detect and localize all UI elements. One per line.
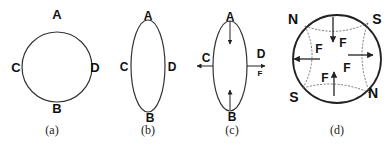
field-line-bottom bbox=[303, 84, 370, 93]
caption-b: (b) bbox=[141, 123, 155, 137]
pole-top-right: S bbox=[372, 11, 381, 27]
caption-d: (d) bbox=[330, 123, 344, 137]
force-label-top: F bbox=[339, 36, 346, 50]
force-label-bottom: F bbox=[321, 71, 328, 85]
caption-a: (a) bbox=[45, 123, 58, 137]
field-line-left bbox=[303, 26, 312, 88]
panel-b: A B C D (b) bbox=[120, 9, 177, 137]
label-d: D bbox=[257, 47, 266, 61]
panel-a: A B C D (a) bbox=[11, 7, 99, 137]
label-a: A bbox=[52, 7, 62, 22]
label-c: C bbox=[120, 60, 129, 74]
force-label-left: F bbox=[315, 42, 322, 56]
panel-d: F F F F N S S N (d) bbox=[288, 11, 382, 137]
circle-shape bbox=[22, 32, 92, 102]
force-label-right: F bbox=[343, 61, 350, 75]
label-d: D bbox=[168, 60, 177, 74]
label-a: A bbox=[144, 9, 153, 23]
label-c: C bbox=[202, 51, 211, 65]
label-a: A bbox=[226, 10, 235, 24]
field-line-top bbox=[305, 23, 368, 31]
label-force: F bbox=[258, 69, 263, 78]
panel-c: A B C D F (c) bbox=[197, 10, 266, 137]
label-c: C bbox=[11, 60, 21, 75]
label-b: B bbox=[52, 101, 61, 116]
pole-top-left: N bbox=[288, 11, 298, 27]
figure-canvas: A B C D (a) A B C D (b) A B C D F (c) bbox=[0, 0, 392, 147]
caption-c: (c) bbox=[225, 123, 238, 137]
pole-bottom-right: N bbox=[368, 85, 378, 101]
ellipse-shape bbox=[131, 20, 165, 112]
field-line-right bbox=[362, 23, 370, 93]
label-d: D bbox=[90, 60, 99, 75]
label-b: B bbox=[228, 110, 237, 124]
pole-bottom-left: S bbox=[289, 89, 298, 105]
